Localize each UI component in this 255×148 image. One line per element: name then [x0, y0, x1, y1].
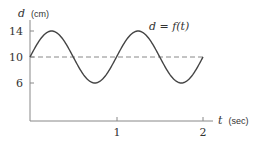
curve-annotation: d = f(t)	[149, 20, 189, 33]
chart: 14 10 6 1 2 d (cm) t (sec) d = f(t)	[0, 0, 255, 148]
y-axis-label: d (cm)	[18, 3, 49, 20]
y-tick-label-14: 14	[9, 25, 23, 38]
x-tick-label-2: 2	[200, 126, 207, 139]
y-tick-label-10: 10	[9, 51, 23, 64]
x-tick-label-1: 1	[114, 126, 121, 139]
x-axis-label: t (sec)	[218, 110, 248, 127]
y-tick-label-6: 6	[16, 77, 23, 90]
